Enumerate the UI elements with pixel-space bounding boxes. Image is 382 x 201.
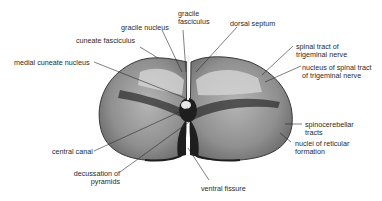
label-gracile-nucleus: gracile nucleus <box>121 24 169 32</box>
label-spinocerebellar-tracts: spinocerebellar tracts <box>305 121 354 137</box>
label-spinal-tract-trigeminal: spinal tract of trigeminal nerve <box>296 43 347 59</box>
specimen-illustration <box>0 0 382 201</box>
label-nucleus-spinal-tract: nucleus of spinal tract of trigeminal ne… <box>302 64 372 80</box>
label-dorsal-septum: dorsal septum <box>230 20 275 28</box>
label-nuclei-reticular-formation: nuclei of reticular formation <box>295 140 349 156</box>
label-decussation-pyramids: decussation of pyramids <box>70 170 120 186</box>
label-medial-cuneate-nucleus: medial cuneate nucleus <box>14 59 90 67</box>
label-gracile-fasciculus: gracile fasciculus <box>178 10 210 26</box>
label-cuneate-fasciculus: cuneate fasciculus <box>76 37 135 45</box>
label-ventral-fissure: ventral fissure <box>201 185 246 193</box>
label-central-canal: central canal <box>52 148 93 156</box>
